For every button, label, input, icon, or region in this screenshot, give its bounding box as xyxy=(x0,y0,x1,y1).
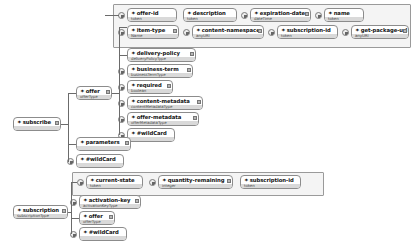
connector-line xyxy=(119,27,127,28)
attribute-node-name[interactable]: ✦name token xyxy=(324,8,364,22)
expander-icon[interactable] xyxy=(305,12,309,16)
occurrence-icon xyxy=(149,179,156,186)
attribute-node-subscription-id[interactable]: ✦subscription-id token xyxy=(277,25,338,39)
attribute-node-get-package-url[interactable]: ✦get-package-url anyURI xyxy=(351,25,409,39)
node-type xyxy=(80,236,126,241)
element-node-delivery-policy[interactable]: ✦delivery-policy deliveryPolicyType xyxy=(127,48,196,62)
node-type xyxy=(77,163,123,168)
element-plus-icon: ✦ xyxy=(80,157,85,163)
node-label: ✦#wildCard xyxy=(77,155,123,162)
element-node-business-term[interactable]: ✦business-term businessTermType xyxy=(127,64,193,78)
element-node-content-metadata[interactable]: ✦content-metadata contentMetadataType xyxy=(127,96,203,110)
connector-line xyxy=(68,144,76,145)
node-type: token xyxy=(325,17,363,22)
node-type: subscriptionType xyxy=(14,214,67,219)
expander-icon[interactable] xyxy=(193,116,197,120)
node-type: deliveryPolicyType xyxy=(128,57,195,62)
element-node-offer-wildcard[interactable]: ✦#wildCard xyxy=(127,128,175,142)
connector-line xyxy=(105,15,119,16)
node-type: activationKeyType xyxy=(80,204,140,209)
node-type: integer xyxy=(159,184,232,189)
node-label: ✦#wildCard xyxy=(128,129,174,136)
expander-icon[interactable] xyxy=(197,100,201,104)
expander-icon[interactable] xyxy=(258,29,262,33)
element-node-parameters[interactable]: ✦parameters xyxy=(76,137,131,151)
node-type: anyURI xyxy=(193,34,263,39)
node-label: ✦parameters xyxy=(77,138,130,145)
occurrence-icon xyxy=(315,12,322,19)
element-node-required[interactable]: ✦required boolean xyxy=(127,80,173,94)
attribute-node-quantity-remaining[interactable]: ✦quantity-remaining integer xyxy=(158,175,233,189)
connector-line xyxy=(68,93,76,94)
occurrence-icon xyxy=(342,29,349,36)
expander-icon[interactable] xyxy=(190,52,194,56)
connector-line xyxy=(119,27,120,135)
connector-line xyxy=(61,124,68,125)
expander-icon[interactable] xyxy=(173,29,177,33)
occurrence-icon xyxy=(241,12,248,19)
connector-line xyxy=(68,93,69,162)
attribute-node-expiration-date[interactable]: ✦expiration-date dateTime xyxy=(250,8,311,22)
connector-line xyxy=(71,182,77,183)
node-type: contentMetadataType xyxy=(128,105,202,110)
occurrence-icon xyxy=(183,29,190,36)
element-plus-icon: ✦ xyxy=(131,131,136,137)
node-type: anyURI xyxy=(352,34,408,39)
expander-icon[interactable] xyxy=(106,90,110,94)
node-type: offerType xyxy=(77,95,111,100)
node-type: businessTermType xyxy=(128,73,192,78)
connector-line xyxy=(119,55,127,56)
element-node-offer-metadata[interactable]: ✦offer-metadata offerMetadataType xyxy=(127,112,199,126)
attribute-node-offer-id[interactable]: ✦offer-id token xyxy=(127,8,177,22)
connector-line xyxy=(71,218,79,219)
element-node-offer[interactable]: ✦offer offerType xyxy=(76,86,112,100)
node-type xyxy=(128,137,174,142)
attribute-node-current-state[interactable]: ✦current-state token xyxy=(86,175,143,189)
expander-icon[interactable] xyxy=(109,215,113,219)
element-node-activation-key[interactable]: ✦activation-key activationKeyType xyxy=(79,195,141,209)
expander-icon[interactable] xyxy=(55,121,59,125)
occurrence-icon xyxy=(77,179,84,186)
node-type: Name xyxy=(128,34,178,39)
element-node-subscribe[interactable]: ✦subscribe xyxy=(13,117,61,131)
expander-icon[interactable] xyxy=(135,199,139,203)
node-type: token xyxy=(184,17,236,22)
attribute-node-item-type[interactable]: ✦item-type Name xyxy=(127,25,179,39)
node-type xyxy=(77,146,130,151)
connector-line xyxy=(71,182,72,234)
node-type: token xyxy=(278,34,337,39)
expander-icon[interactable] xyxy=(125,141,129,145)
element-node-subscribe-wildcard[interactable]: ✦#wildCard xyxy=(76,154,124,168)
node-label: ✦#wildCard xyxy=(80,228,126,235)
element-node-subscription-offer[interactable]: ✦offer offerType xyxy=(79,211,115,225)
node-type: offerMetadataType xyxy=(128,121,198,126)
expander-icon[interactable] xyxy=(227,179,231,183)
element-plus-icon: ✦ xyxy=(83,230,88,236)
attribute-node-content-namespace[interactable]: ✦content-namespace anyURI xyxy=(192,25,264,39)
node-type: boolean xyxy=(128,89,172,94)
attribute-node-subscription-id-2[interactable]: ✦subscription-id token xyxy=(240,175,301,189)
schema-diagram-canvas: ✦offer-id token ✦description token ✦expi… xyxy=(0,0,412,248)
node-label: ✦subscribe xyxy=(14,118,60,125)
expander-icon[interactable] xyxy=(403,29,407,33)
node-type: token xyxy=(87,184,142,189)
occurrence-icon xyxy=(268,29,275,36)
element-node-subscription-wildcard[interactable]: ✦#wildCard xyxy=(79,227,127,241)
node-type xyxy=(14,126,60,131)
node-type: token xyxy=(241,184,300,189)
expander-icon[interactable] xyxy=(62,209,66,213)
expander-icon[interactable] xyxy=(187,68,191,72)
occurrence-icon xyxy=(118,12,125,19)
connector-line xyxy=(112,93,119,94)
element-plus-icon: ✦ xyxy=(17,120,22,126)
attribute-node-description[interactable]: ✦description token xyxy=(183,8,237,22)
element-node-subscription[interactable]: ✦subscription subscriptionType xyxy=(13,205,68,219)
expander-icon[interactable] xyxy=(167,84,171,88)
element-plus-icon: ✦ xyxy=(80,140,85,146)
node-type: offerType xyxy=(80,220,114,225)
node-type: dateTime xyxy=(251,17,310,22)
node-type: token xyxy=(128,17,176,22)
